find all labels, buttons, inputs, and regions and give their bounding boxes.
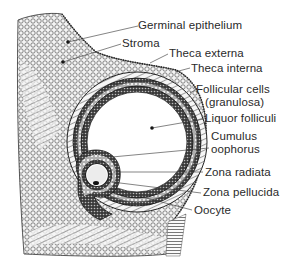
label-follicular-cells: Follicular cells bbox=[196, 83, 270, 96]
label-oophorus: oophorus bbox=[211, 143, 260, 156]
oocyte-nucleus bbox=[93, 181, 99, 185]
label-germinal-epithelium: Germinal epithelium bbox=[138, 19, 242, 32]
label-oocyte: Oocyte bbox=[194, 204, 231, 217]
label-cumulus: Cumulus bbox=[211, 130, 257, 143]
label-liquor-folliculi: Liquor folliculi bbox=[205, 112, 276, 125]
label-zona-radiata: Zona radiata bbox=[205, 166, 271, 179]
label-granulosa: (granulosa) bbox=[205, 96, 264, 109]
label-theca-interna: Theca interna bbox=[191, 62, 263, 75]
label-theca-externa: Theca externa bbox=[169, 47, 244, 60]
label-stroma: Stroma bbox=[122, 37, 160, 50]
label-zona-pellucida: Zona pellucida bbox=[203, 186, 279, 199]
